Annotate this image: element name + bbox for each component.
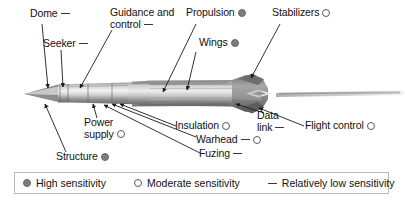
callout-flight-control-label: Flight control <box>305 120 364 132</box>
marker-moderate-icon <box>134 179 142 187</box>
callout-seeker: Seeker <box>43 38 88 50</box>
callout-guidance-label-line1: Guidance and <box>110 7 174 19</box>
callout-propulsion-label: Propulsion <box>186 7 235 19</box>
callout-dome-label: Dome <box>30 8 58 20</box>
callout-stabilizers: Stabilizers <box>272 7 330 19</box>
callout-stabilizers-label: Stabilizers <box>272 7 319 19</box>
callout-dome: Dome <box>30 8 70 20</box>
callout-propulsion: Propulsion <box>186 7 246 19</box>
marker-low-icon <box>79 43 88 44</box>
marker-low-icon <box>61 13 70 14</box>
legend-item-low-label: Relatively low sensitivity <box>282 177 395 189</box>
callout-data-link-label-line1: Data <box>257 110 284 122</box>
callout-power-supply-label-line2: supply <box>84 129 114 141</box>
marker-moderate-icon <box>117 130 125 138</box>
callout-warhead-label: Warhead <box>196 134 238 146</box>
legend-item-high-label: High sensitivity <box>36 177 106 189</box>
callout-seeker-label: Seeker <box>43 38 76 50</box>
callout-guidance-label-line2: control <box>110 19 141 31</box>
legend-item-low-sensitivity: Relatively low sensitivity <box>268 177 395 189</box>
marker-low-icon <box>233 153 242 154</box>
callout-fuzing: Fuzing <box>199 148 242 160</box>
marker-high-icon <box>231 39 239 47</box>
marker-moderate-icon <box>222 122 230 130</box>
marker-low-icon <box>275 127 284 128</box>
marker-moderate-icon <box>322 9 330 17</box>
legend-item-high-sensitivity: High sensitivity <box>23 177 106 189</box>
callout-insulation-label: Insulation <box>175 120 219 132</box>
marker-moderate-icon <box>253 136 261 144</box>
callout-power-supply-label-line1: Power <box>84 117 125 129</box>
legend-item-moderate-sensitivity: Moderate sensitivity <box>134 177 240 189</box>
marker-low-icon <box>268 183 277 184</box>
callout-data-link: Data link <box>257 110 284 133</box>
callout-guidance-and-control: Guidance and control <box>110 7 174 30</box>
callout-wings: Wings <box>199 37 239 49</box>
diagram-canvas: Dome Seeker Guidance and control Propuls… <box>0 0 405 207</box>
callout-power-supply: Power supply <box>84 117 125 140</box>
marker-low-icon <box>241 139 250 140</box>
marker-low-icon <box>144 24 153 25</box>
legend-item-moderate-label: Moderate sensitivity <box>147 177 240 189</box>
callout-structure: Structure <box>56 151 109 163</box>
callout-wings-label: Wings <box>199 37 228 49</box>
marker-high-icon <box>238 9 246 17</box>
legend: High sensitivity Moderate sensitivity Re… <box>14 172 389 194</box>
callout-fuzing-label: Fuzing <box>199 148 230 160</box>
callout-data-link-label-line2: link <box>257 122 272 134</box>
marker-moderate-icon <box>367 122 375 130</box>
callout-insulation: Insulation <box>175 120 230 132</box>
callout-warhead: Warhead <box>196 134 261 146</box>
callout-structure-label: Structure <box>56 151 98 163</box>
callout-flight-control: Flight control <box>305 120 375 132</box>
marker-high-icon <box>23 179 31 187</box>
marker-high-icon <box>101 153 109 161</box>
